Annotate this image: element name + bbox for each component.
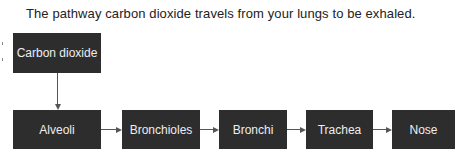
node-label: Trachea [318, 123, 362, 137]
node-alveoli: Alveoli [13, 110, 101, 149]
connector-alveoli-bronchioles [101, 129, 116, 130]
connector-bronchioles-bronchi [200, 129, 213, 130]
node-label: Bronchi [233, 123, 274, 137]
edge-marker [2, 58, 3, 61]
node-label: Alveoli [39, 123, 74, 137]
connector-trachea-nose [373, 129, 386, 130]
node-trachea: Trachea [306, 110, 373, 149]
node-label: Bronchioles [130, 123, 193, 137]
node-bronchioles: Bronchioles [122, 110, 200, 149]
diagram-caption: The pathway carbon dioxide travels from … [26, 6, 416, 21]
node-carbon-dioxide: Carbon dioxide [13, 33, 101, 73]
node-label: Nose [409, 123, 437, 137]
connector-co2-alveoli [57, 73, 58, 104]
connector-bronchi-trachea [287, 129, 300, 130]
node-label: Carbon dioxide [17, 46, 98, 60]
node-nose: Nose [392, 110, 455, 149]
node-bronchi: Bronchi [219, 110, 287, 149]
edge-marker [2, 42, 3, 45]
